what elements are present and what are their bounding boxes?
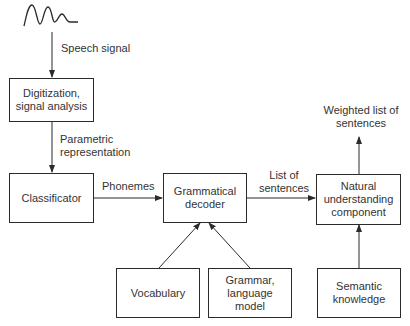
speech-waveform-icon [24, 5, 78, 26]
node-grammar-language-model: Grammar, language model [208, 268, 292, 318]
arrow-grammar-to-decoder [209, 223, 250, 268]
label-phonemes: Phonemes [102, 180, 155, 193]
node-classificator: Classificator [9, 173, 94, 223]
node-digitization: Digitization, signal analysis [9, 78, 94, 122]
node-natural-understanding: Natural understanding component [316, 174, 401, 225]
node-grammatical-decoder: Grammatical decoder [163, 173, 247, 223]
node-vocabulary: Vocabulary [116, 268, 200, 318]
speech-recognition-diagram: Speech signal Parametric representation … [0, 0, 410, 326]
label-speech-signal: Speech signal [61, 42, 130, 55]
label-parametric-representation: Parametric representation [60, 133, 130, 159]
label-weighted-list: Weighted list of sentences [318, 104, 404, 130]
node-semantic-knowledge: Semantic knowledge [317, 268, 401, 318]
label-list-of-sentences: List of sentences [255, 169, 313, 195]
arrow-vocabulary-to-decoder [159, 223, 200, 268]
